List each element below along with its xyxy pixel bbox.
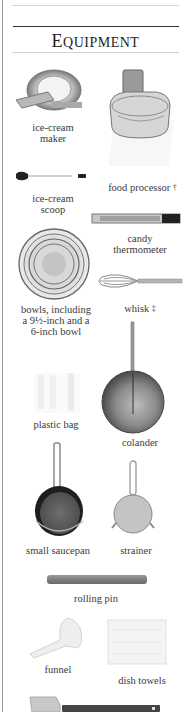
title-top-rule	[13, 26, 179, 27]
label-line: dish towels	[104, 675, 180, 686]
small-saucepan-icon	[34, 443, 86, 538]
colander-icon	[102, 322, 166, 434]
title-bottom-rule	[12, 52, 179, 53]
label-line: food processor	[108, 182, 170, 193]
label-line: small saucepan	[16, 545, 100, 556]
title-initial: E	[52, 31, 64, 51]
label-line: thermometer	[98, 244, 182, 255]
label-line: scoop	[14, 204, 92, 215]
label-line: strainer	[104, 545, 168, 556]
title-rest: QUIPMENT	[63, 35, 139, 50]
ice-cream-maker-icon	[14, 68, 86, 118]
funnel-icon	[30, 618, 86, 660]
ice-cream-maker-label: ice-cream maker	[14, 122, 92, 144]
funnel-label: funnel	[28, 664, 88, 675]
ice-cream-scoop-icon	[16, 171, 86, 183]
candy-thermometer-icon	[92, 213, 184, 225]
plastic-bag-label: plastic bag	[16, 419, 96, 430]
label-line: plastic bag	[16, 419, 96, 430]
spatula-icon	[30, 695, 162, 712]
food-processor-label: food processor †	[100, 182, 185, 193]
label-line: ice-cream	[14, 193, 92, 204]
section-title: EQUIPMENT	[12, 31, 179, 52]
rolling-pin-icon	[47, 575, 149, 586]
label-line: rolling pin	[56, 593, 136, 604]
ice-cream-scoop-label: ice-cream scoop	[14, 193, 92, 215]
candy-thermometer-label: candy thermometer	[98, 233, 182, 255]
bowls-label: bowls, including a 9½-inch and a 6-inch …	[8, 304, 104, 337]
dagger-mark: †	[173, 183, 177, 192]
whisk-label: whisk ‡	[98, 303, 182, 314]
label-line: bowls, including	[8, 304, 104, 315]
food-processor-icon	[108, 66, 174, 166]
whisk-icon	[98, 273, 184, 289]
top-divider	[12, 5, 179, 6]
rolling-pin-label: rolling pin	[56, 593, 136, 604]
double-dagger-mark: ‡	[152, 304, 156, 313]
label-line: colander	[100, 437, 180, 448]
label-line: a 9½-inch and a	[8, 315, 104, 326]
label-line: 6-inch bowl	[8, 326, 104, 337]
strainer-label: strainer	[104, 545, 168, 556]
plastic-bag-icon	[34, 373, 80, 413]
page-left-border	[2, 0, 3, 712]
label-line: ice-cream	[14, 122, 92, 133]
dish-towels-label: dish towels	[104, 675, 180, 686]
label-line: candy	[98, 233, 182, 244]
label-line: maker	[14, 133, 92, 144]
small-saucepan-label: small saucepan	[16, 545, 100, 556]
dish-towels-icon	[108, 620, 168, 666]
strainer-icon	[112, 461, 156, 536]
colander-label: colander	[100, 437, 180, 448]
label-line: funnel	[28, 664, 88, 675]
label-line: whisk	[124, 303, 149, 314]
bowls-icon	[18, 228, 90, 300]
